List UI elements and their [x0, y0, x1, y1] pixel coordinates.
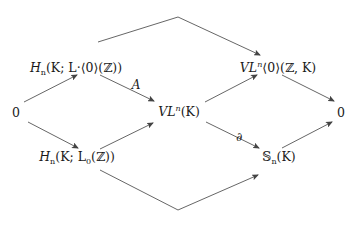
arrow-bottom-route — [100, 170, 258, 210]
node-zero-right: 0 — [337, 107, 345, 120]
s-symbol: 𝕊 — [262, 149, 271, 164]
h-symbol: H — [30, 60, 41, 75]
vl-upper-args: ⟨0⟩(ℤ, K) — [262, 60, 316, 75]
vl-mid-args: (K) — [181, 104, 200, 119]
v-symbol: V — [158, 104, 167, 119]
node-h-lower: Hn(K; L0(ℤ)) — [39, 151, 115, 164]
arrow-top-route — [98, 17, 260, 55]
zero-left-text: 0 — [12, 105, 20, 120]
node-h-upper: Hn(K; L·⟨0⟩(ℤ)) — [30, 62, 122, 75]
arrow-partial — [206, 122, 259, 148]
arrow-s-to-zero — [282, 122, 332, 148]
node-zero-left: 0 — [12, 107, 20, 120]
edge-label-a: A — [132, 79, 141, 91]
h-upper-args: (K; L·⟨0⟩(ℤ)) — [46, 60, 122, 75]
v-symbol: V — [240, 60, 249, 75]
arrow-a — [100, 75, 154, 101]
h-symbol: H — [39, 149, 50, 164]
zero-right-text: 0 — [337, 105, 345, 120]
arrow-vl-mid-to-vl-upper — [205, 75, 257, 102]
edge-label-partial: ∂ — [236, 131, 242, 143]
node-vl-upper: VLn⟨0⟩(ℤ, K) — [240, 62, 316, 75]
s-lower-args: (K) — [277, 149, 296, 164]
node-s-lower: 𝕊n(K) — [262, 151, 295, 164]
arrow-h-lower-to-vl-mid — [100, 123, 153, 149]
arrow-zero-to-h-upper — [24, 75, 77, 102]
commutative-diagram: 0 Hn(K; L·⟨0⟩(ℤ)) VLn⟨0⟩(ℤ, K) VLn(K) Hn… — [0, 0, 354, 226]
arrow-vl-upper-to-zero — [282, 75, 334, 101]
arrow-zero-to-h-lower — [28, 122, 78, 148]
h-lower-args-b: (ℤ)) — [91, 149, 115, 164]
node-vl-mid: VLn(K) — [158, 106, 200, 119]
h-lower-args-a: (K; L — [55, 149, 86, 164]
